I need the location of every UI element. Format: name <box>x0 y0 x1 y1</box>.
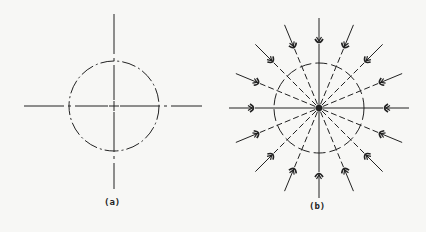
radial-ray <box>255 44 319 108</box>
sink-point <box>316 105 322 111</box>
radial-ray <box>255 108 319 172</box>
radial-ray <box>319 44 383 108</box>
ray-outer-segment <box>365 44 383 62</box>
ray-outer-segment <box>285 25 295 48</box>
ray-outer-segment <box>285 168 295 191</box>
ray-outer-segment <box>255 44 273 62</box>
caption-b: (b) <box>309 201 325 211</box>
ray-outer-segment <box>236 74 259 84</box>
diagram-canvas <box>0 0 426 232</box>
radial-ray <box>319 108 383 172</box>
ray-outer-segment <box>344 168 354 191</box>
ray-outer-segment <box>344 25 354 48</box>
figure-b-radial-field-converging <box>229 18 409 198</box>
ray-outer-segment <box>255 154 273 172</box>
figure-a-circle-with-crosshair <box>24 14 202 189</box>
caption-a: (a) <box>104 197 120 207</box>
ray-outer-segment <box>236 133 259 143</box>
ray-outer-segment <box>379 74 402 84</box>
ray-outer-segment <box>365 154 383 172</box>
ray-outer-segment <box>379 133 402 143</box>
